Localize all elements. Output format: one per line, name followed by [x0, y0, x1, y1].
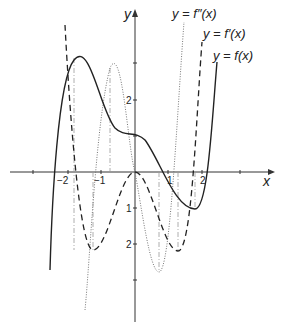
y-tick-label: 1 [126, 203, 132, 214]
function-graph: −2 −1 1 2 2 1 2 x y y = f″(x) y = f′(x) … [0, 0, 281, 332]
x-tick-label: −1 [94, 175, 106, 186]
label-f-double-prime: y = f″(x) [171, 6, 217, 21]
y-tick-label: 2 [126, 239, 132, 250]
x-axis-label: x [262, 173, 271, 189]
label-f: y = f(x) [212, 48, 253, 63]
y-axis-arrow-icon [132, 9, 138, 17]
y-axis-label: y [123, 6, 132, 22]
curve-f [50, 56, 217, 270]
x-tick-label: −2 [57, 175, 69, 186]
y-tick-label: 2 [126, 95, 132, 106]
label-f-prime: y = f′(x) [202, 26, 246, 41]
tick-labels: −2 −1 1 2 2 1 2 x y [57, 6, 271, 250]
